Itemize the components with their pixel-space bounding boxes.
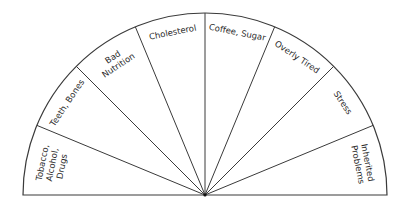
center-point (203, 193, 206, 196)
semicircle-wheel-diagram: Tobacco,Alcohol,DrugsTeeth, BonesBadNutr… (0, 0, 410, 207)
wheel-outline (23, 13, 387, 197)
